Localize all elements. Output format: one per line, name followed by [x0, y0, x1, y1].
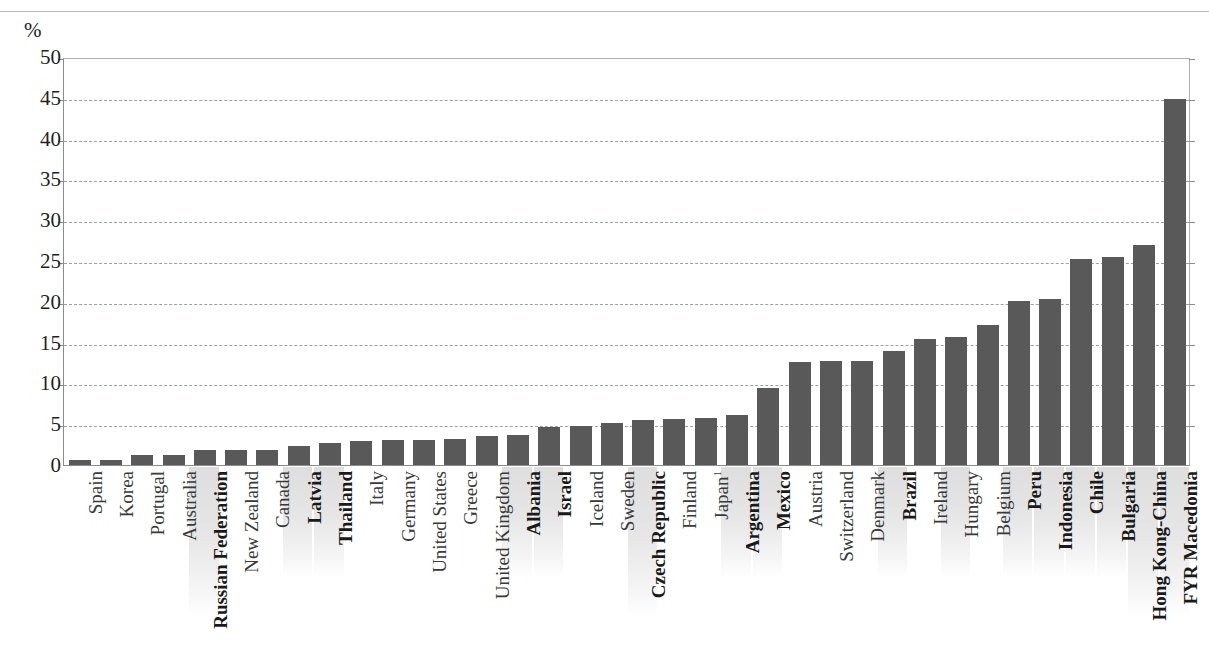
plot-area [63, 58, 1190, 466]
y-axis-tick [1189, 59, 1195, 60]
bar [570, 426, 592, 465]
x-axis-category-label: United States [430, 471, 449, 573]
y-axis-tick [1189, 100, 1195, 101]
bar [1039, 299, 1061, 465]
bar [163, 455, 185, 465]
y-axis-tick-label: 10 [15, 373, 61, 394]
y-axis-tick-label: 20 [15, 292, 61, 313]
bar [1102, 257, 1124, 465]
y-axis-tick-label: 25 [15, 251, 61, 272]
bar [507, 435, 529, 465]
x-axis-category-label: Belgium [994, 471, 1013, 536]
bar [820, 361, 842, 465]
bar [883, 351, 905, 465]
bar [382, 440, 404, 465]
bar [663, 419, 685, 465]
bar [726, 415, 748, 465]
bar [319, 443, 341, 465]
x-axis-category-label: Switzerland [837, 471, 856, 562]
x-axis-category-label: Israel [555, 471, 574, 517]
bar [100, 460, 122, 465]
x-axis-category-label: Brazil [900, 471, 919, 521]
y-axis-tick [1189, 426, 1195, 427]
bar [444, 439, 466, 465]
x-axis-category-label: Bulgaria [1119, 471, 1138, 542]
y-axis-tick [1189, 345, 1195, 346]
x-axis-category-label: Portugal [148, 471, 167, 535]
bar [757, 388, 779, 465]
bar [225, 450, 247, 465]
y-axis-tick-label: 35 [15, 169, 61, 190]
x-axis-category-label: Indonesia [1056, 471, 1075, 550]
y-axis-tick-label: 30 [15, 210, 61, 231]
bar [601, 423, 623, 465]
y-axis-tick-label: 0 [15, 455, 61, 476]
bar [538, 427, 560, 465]
y-axis-tick-label: 40 [15, 129, 61, 150]
gridline [64, 222, 1189, 223]
x-axis-category-label: Italy [367, 471, 386, 506]
x-axis-category-label: Canada [273, 471, 292, 528]
bar [632, 420, 654, 465]
y-axis-tick-label: 45 [15, 88, 61, 109]
x-axis-category-label: Sweden [618, 471, 637, 531]
y-axis-tick [1189, 222, 1195, 223]
top-divider-rule [0, 11, 1209, 12]
bar [288, 446, 310, 465]
x-axis-category-label: Korea [117, 471, 136, 517]
bar [256, 450, 278, 465]
figure-bar-chart: % 05101520253035404550 SpainKoreaPortuga… [0, 0, 1209, 672]
x-axis-category-label: Iceland [587, 471, 606, 527]
bar [350, 441, 372, 465]
y-axis-tick-label: 15 [15, 333, 61, 354]
gridline [64, 141, 1189, 142]
x-axis-category-label: Albania [524, 471, 543, 535]
bar [1008, 301, 1030, 465]
x-axis-category-label: Austria [806, 471, 825, 527]
y-axis-tick [1189, 181, 1195, 182]
y-axis-unit-label: % [24, 20, 42, 41]
bar [1164, 99, 1186, 465]
x-axis-category-label: Japan1 [712, 471, 731, 520]
x-axis-category-label: Greece [461, 471, 480, 525]
bar [1133, 245, 1155, 465]
y-axis-tick [1189, 385, 1195, 386]
gridline [64, 263, 1189, 264]
y-axis-tick [1189, 141, 1195, 142]
y-axis-tick [1189, 263, 1195, 264]
x-axis-category-label: Mexico [774, 471, 793, 530]
bar [851, 361, 873, 465]
x-axis-category-label: Argentina [743, 471, 762, 553]
gridline [64, 100, 1189, 101]
bar [977, 325, 999, 465]
x-axis-category-label: New Zealand [242, 471, 261, 573]
bar [789, 362, 811, 465]
x-axis-category-label: United Kingdom [493, 471, 512, 599]
bar [476, 436, 498, 465]
bar [194, 450, 216, 465]
bar [914, 339, 936, 465]
bar [695, 418, 717, 465]
x-axis-category-label: Thailand [336, 471, 355, 545]
x-axis-category-label: Denmark [868, 471, 887, 542]
gridline [64, 181, 1189, 182]
x-axis-category-label: Peru [1025, 471, 1044, 510]
x-axis-category-label: Russian Federation [211, 471, 230, 629]
y-axis-tick [1189, 304, 1195, 305]
y-axis-tick-label: 5 [15, 414, 61, 435]
bar [69, 460, 91, 465]
bar [413, 440, 435, 465]
bar [945, 337, 967, 465]
x-axis-category-label: Hong Kong-China [1150, 471, 1169, 620]
x-axis-category-label: FYR Macedonia [1181, 471, 1200, 605]
x-axis-category-label: Spain [86, 471, 105, 514]
y-axis-tick-label: 50 [15, 47, 61, 68]
x-axis-category-label: Ireland [931, 471, 950, 525]
x-axis-category-label: Finland [680, 471, 699, 529]
x-axis-category-label: Australia [180, 471, 199, 541]
x-axis-category-label: Chile [1087, 471, 1106, 514]
bar [131, 455, 153, 465]
x-axis-category-label: Hungary [962, 471, 981, 537]
x-axis-category-label: Czech Republic [649, 471, 668, 598]
x-axis-category-label: Latvia [305, 471, 324, 524]
